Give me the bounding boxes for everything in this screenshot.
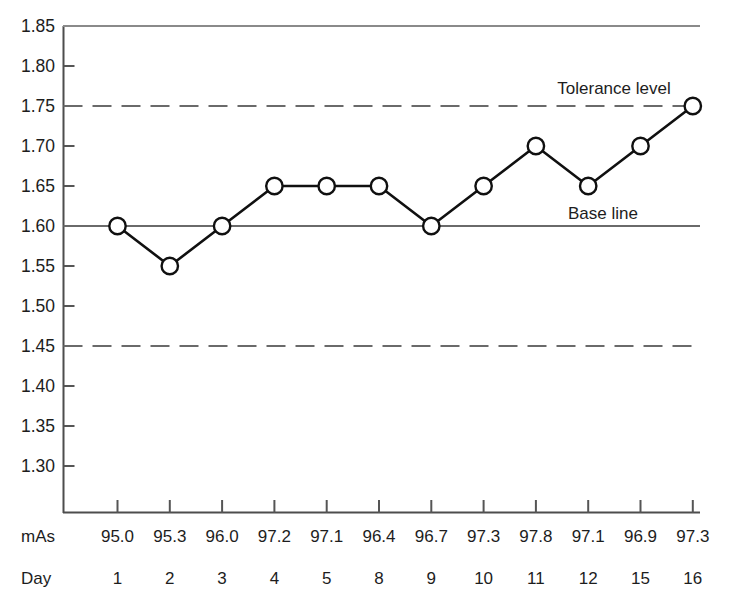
y-tick-label-1.60: 1.60 (21, 216, 55, 236)
y-tick-label-1.55: 1.55 (21, 256, 55, 276)
mas-value-cell: 96.9 (624, 527, 657, 546)
y-tick-label-1.50: 1.50 (21, 296, 55, 316)
data-point-marker: Day 10: 1.65 (475, 178, 491, 194)
y-tick-label-1.75: 1.75 (21, 96, 55, 116)
mas-value-cell: 96.4 (362, 527, 395, 546)
mas-value-cell: 97.3 (467, 527, 500, 546)
day-value-cell: 8 (374, 569, 383, 588)
mas-value-cell: 96.7 (415, 527, 448, 546)
row-header-mas: mAs (21, 527, 55, 546)
day-value-cell: 5 (322, 569, 331, 588)
mas-value-cell: 97.1 (310, 527, 343, 546)
mas-value-cell: 97.3 (676, 527, 709, 546)
mas-value-cell: 97.8 (519, 527, 552, 546)
y-tick-label-1.85: 1.85 (21, 16, 55, 36)
data-point-marker: Day 9: 1.60 (423, 218, 439, 234)
y-tick-label-1.40: 1.40 (21, 376, 55, 396)
day-value-cell: 15 (631, 569, 650, 588)
mas-value-cell: 95.0 (101, 527, 134, 546)
mas-value-cell: 95.3 (153, 527, 186, 546)
data-point-marker: Day 2: 1.55 (162, 258, 178, 274)
day-value-cell: 4 (270, 569, 279, 588)
row-header-day: Day (21, 569, 52, 588)
data-point-marker: Day 1: 1.60 (109, 218, 125, 234)
chart-container: 1.851.801.751.701.651.601.551.501.451.40… (0, 0, 729, 604)
day-value-cell: 1 (113, 569, 122, 588)
day-value-cell: 11 (527, 569, 545, 588)
day-value-cell: 9 (427, 569, 436, 588)
data-point-marker: Day 3: 1.60 (214, 218, 230, 234)
day-value-cell: 16 (683, 569, 702, 588)
data-point-marker: Day 16: 1.75 (685, 98, 701, 114)
y-tick-label-1.45: 1.45 (21, 336, 55, 356)
mas-value-cell: 97.1 (572, 527, 605, 546)
base-line-annotation: Base line (568, 204, 638, 223)
day-value-cell: 10 (474, 569, 493, 588)
data-point-marker: Day 8: 1.65 (371, 178, 387, 194)
mas-value-cell: 97.2 (258, 527, 291, 546)
data-point-marker: Day 15: 1.70 (632, 138, 648, 154)
data-point-marker: Day 5: 1.65 (319, 178, 335, 194)
optical-density-line-chart: 1.851.801.751.701.651.601.551.501.451.40… (0, 0, 729, 604)
day-value-cell: 2 (165, 569, 174, 588)
day-value-cell: 3 (217, 569, 226, 588)
y-tick-label-1.30: 1.30 (21, 456, 55, 476)
y-tick-label-1.70: 1.70 (21, 136, 55, 156)
tolerance-level-annotation: Tolerance level (557, 79, 670, 98)
y-tick-label-1.65: 1.65 (21, 176, 55, 196)
y-tick-label-1.35: 1.35 (21, 416, 55, 436)
data-point-marker: Day 4: 1.65 (266, 178, 282, 194)
day-value-cell: 12 (579, 569, 598, 588)
mas-value-cell: 96.0 (206, 527, 239, 546)
data-point-marker: Day 11: 1.70 (528, 138, 544, 154)
data-point-marker: Day 12: 1.65 (580, 178, 596, 194)
y-tick-label-1.80: 1.80 (21, 56, 55, 76)
